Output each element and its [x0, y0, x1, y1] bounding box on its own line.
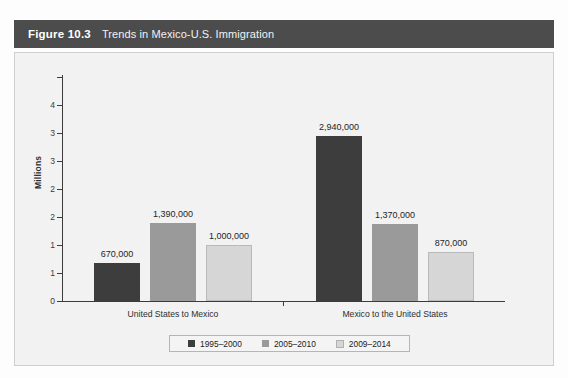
- legend-swatch-icon: [336, 340, 344, 348]
- figure-container: Figure 10.3 Trends in Mexico-U.S. Immigr…: [0, 0, 568, 378]
- y-axis-tick: [57, 189, 62, 190]
- figure-header-bar: Figure 10.3 Trends in Mexico-U.S. Immigr…: [14, 20, 554, 48]
- y-axis-tick: [57, 105, 62, 106]
- bar-light: [428, 252, 474, 301]
- x-axis-category-label: Mexico to the United States: [342, 309, 447, 319]
- legend-swatch-icon: [262, 340, 269, 347]
- bar-value-label: 2,940,000: [319, 122, 359, 132]
- bar-mid: [150, 223, 196, 301]
- bar-mid: [372, 224, 418, 301]
- bar-value-label: 870,000: [435, 238, 468, 248]
- legend-item-1995-2000: 1995–2000: [188, 339, 242, 349]
- legend-item-2005-2010: 2005–2010: [262, 339, 316, 349]
- y-axis-tick: [57, 133, 62, 134]
- bar-value-label: 1,000,000: [209, 231, 249, 241]
- legend-label: 2009–2014: [349, 339, 391, 349]
- y-axis-tick-label: 3: [15, 156, 55, 166]
- legend-label: 2005–2010: [274, 339, 316, 349]
- chart-panel: Millions 01122334 670,0001,390,0001,000,…: [14, 52, 554, 366]
- figure-title: Trends in Mexico-U.S. Immigration: [102, 28, 274, 40]
- bar-value-label: 1,370,000: [375, 210, 415, 220]
- y-axis-tick: [57, 161, 62, 162]
- y-axis-tick: [57, 217, 62, 218]
- chart-legend: 1995–2000 2005–2010 2009–2014: [169, 335, 410, 352]
- y-axis-tick-label: 3: [15, 128, 55, 138]
- figure-number: Figure 10.3: [28, 28, 91, 40]
- y-axis-tick-label: 2: [15, 212, 55, 222]
- y-axis-tick-label: 1: [15, 268, 55, 278]
- bar-light: [206, 245, 252, 301]
- y-axis-tick: [57, 301, 62, 302]
- y-axis-tick-label: 2: [15, 184, 55, 194]
- bar-value-label: 1,390,000: [153, 209, 193, 219]
- plot-area: Millions 01122334 670,0001,390,0001,000,…: [15, 53, 553, 365]
- bar-dark: [316, 136, 362, 301]
- bar-value-label: 670,000: [101, 249, 134, 259]
- y-axis-tick-label: 0: [15, 296, 55, 306]
- legend-item-2009-2014: 2009–2014: [336, 339, 391, 349]
- bar-dark: [94, 263, 140, 301]
- legend-label: 1995–2000: [200, 339, 242, 349]
- y-axis-tick-label: 4: [15, 100, 55, 110]
- legend-swatch-icon: [188, 340, 195, 347]
- x-axis-divider-tick: [283, 301, 284, 306]
- x-axis-category-label: United States to Mexico: [128, 309, 219, 319]
- y-axis-tick: [57, 245, 62, 246]
- y-axis-line: [62, 75, 63, 302]
- y-axis-tick: [57, 77, 62, 78]
- y-axis-tick-label: 1: [15, 240, 55, 250]
- y-axis-tick: [57, 273, 62, 274]
